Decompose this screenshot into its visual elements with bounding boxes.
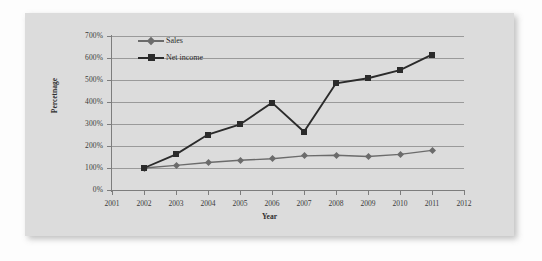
x-axis-tick: [144, 191, 145, 195]
data-point: [333, 80, 339, 86]
y-axis-tick-label: 500%: [85, 75, 103, 84]
y-axis-tick-label: 300%: [85, 119, 103, 128]
data-point: [205, 132, 211, 138]
x-axis-tick: [432, 191, 433, 195]
y-axis-title: Percetnage: [50, 61, 59, 131]
data-point: [269, 100, 275, 106]
series-line-net-income: [144, 55, 432, 168]
x-axis-tick: [464, 191, 465, 195]
legend-label: Sales: [166, 36, 183, 45]
legend-marker-icon: [138, 35, 164, 47]
x-axis-tick: [272, 191, 273, 195]
x-axis-tick: [304, 191, 305, 195]
data-point: [237, 121, 243, 127]
x-axis-tick: [240, 191, 241, 195]
legend-label: Net income: [166, 53, 203, 62]
data-point: [429, 52, 435, 58]
y-axis-tick-label: 400%: [85, 97, 103, 106]
y-axis-tick-label: 0%: [93, 185, 103, 194]
data-point: [365, 75, 371, 81]
x-axis-tick-label: 2012: [444, 199, 484, 208]
x-axis-title: Year: [25, 212, 514, 221]
data-point: [173, 151, 179, 157]
x-axis-tick: [176, 191, 177, 195]
y-axis-tick-label: 200%: [85, 141, 103, 150]
x-axis-tick: [112, 191, 113, 195]
y-axis-tick-label: 600%: [85, 53, 103, 62]
y-axis-tick-label: 700%: [85, 31, 103, 40]
y-axis-tick-label: 100%: [85, 163, 103, 172]
data-point: [397, 67, 403, 73]
y-axis-tick-labels: 0%100%200%300%400%500%600%700%: [53, 13, 103, 213]
data-point: [301, 129, 307, 135]
chart-legend: SalesNet income: [138, 32, 268, 66]
x-axis-tick: [400, 191, 401, 195]
legend-item: Sales: [138, 32, 268, 49]
data-point: [141, 165, 147, 171]
x-axis-tick: [368, 191, 369, 195]
chart-panel: 0%100%200%300%400%500%600%700% Percetnag…: [25, 13, 514, 236]
x-axis-line: [111, 190, 465, 191]
x-axis-tick: [208, 191, 209, 195]
page-canvas: 0%100%200%300%400%500%600%700% Percetnag…: [0, 0, 542, 261]
legend-item: Net income: [138, 49, 268, 66]
x-axis-tick: [336, 191, 337, 195]
series-line-sales: [144, 150, 432, 168]
legend-marker-icon: [138, 52, 164, 64]
